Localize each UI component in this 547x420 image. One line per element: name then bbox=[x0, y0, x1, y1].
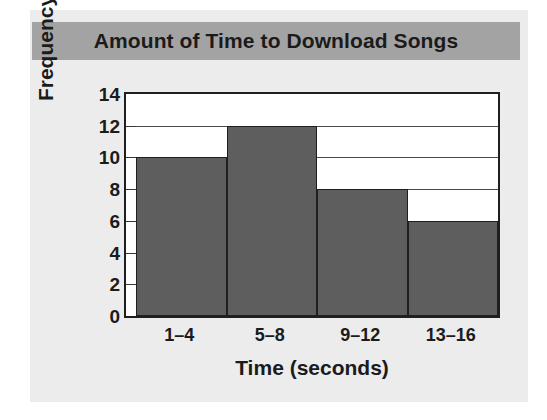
x-tick-label: 13–16 bbox=[406, 325, 497, 346]
bar-group bbox=[136, 94, 498, 316]
chart-title: Amount of Time to Download Songs bbox=[94, 29, 458, 53]
y-tick-label: 2 bbox=[78, 275, 120, 294]
y-axis-tick-labels: 02468101214 bbox=[78, 80, 120, 330]
y-tick-label: 4 bbox=[78, 244, 120, 263]
y-tick-mark bbox=[126, 284, 136, 285]
x-tick-label: 9–12 bbox=[315, 325, 406, 346]
y-axis-title: Frequency bbox=[34, 0, 62, 148]
plot-area bbox=[124, 92, 500, 318]
y-tick-mark bbox=[126, 157, 136, 158]
y-tick-label: 12 bbox=[78, 117, 120, 136]
y-tick-label: 0 bbox=[78, 307, 120, 326]
y-tick-label: 14 bbox=[78, 85, 120, 104]
x-tick-label: 5–8 bbox=[225, 325, 316, 346]
chart-title-banner: Amount of Time to Download Songs bbox=[32, 22, 520, 60]
bar bbox=[227, 126, 318, 316]
y-tick-mark bbox=[126, 189, 136, 190]
y-tick-mark bbox=[126, 253, 136, 254]
figure-container: Amount of Time to Download Songs Frequen… bbox=[0, 0, 547, 420]
y-tick-label: 10 bbox=[78, 148, 120, 167]
bar bbox=[317, 189, 408, 316]
y-tick-mark bbox=[126, 221, 136, 222]
x-tick-label: 1–4 bbox=[134, 325, 225, 346]
y-tick-label: 8 bbox=[78, 180, 120, 199]
bar bbox=[408, 221, 499, 316]
y-tick-label: 6 bbox=[78, 212, 120, 231]
y-tick-mark bbox=[126, 126, 136, 127]
y-axis-tick-marks bbox=[126, 94, 136, 316]
bar bbox=[136, 157, 227, 316]
x-axis-tick-labels: 1–45–89–1213–16 bbox=[134, 325, 500, 351]
x-axis-title: Time (seconds) bbox=[124, 356, 500, 380]
